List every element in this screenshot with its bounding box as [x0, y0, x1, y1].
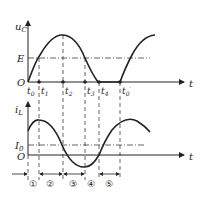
svg-text:②: ②: [46, 179, 54, 189]
x-axis-label: t: [189, 78, 194, 89]
svg-text:t1: t1: [41, 86, 48, 97]
y-axis-label: uC: [15, 21, 27, 34]
origin-label: O: [17, 77, 25, 88]
svg-text:t3: t3: [87, 86, 95, 97]
diagram: uC E O t t0 t1 t2 t3 t4 t0′ iL I0 O t ① …: [0, 0, 203, 197]
y-axis-label-il: iL: [15, 104, 23, 117]
svg-text:③: ③: [69, 179, 77, 189]
bottom-chart: iL I0 O t: [14, 102, 194, 180]
svg-text:⑤: ⑤: [105, 179, 113, 189]
svg-text:④: ④: [87, 179, 95, 189]
top-chart: uC E O t t0 t1 t2 t3 t4 t0′: [15, 21, 194, 180]
interval-labels: ① ② ③ ④ ⑤: [29, 179, 113, 189]
svg-text:t2: t2: [65, 86, 73, 97]
svg-text:t4: t4: [101, 86, 109, 97]
origin-label-bottom: O: [17, 151, 25, 162]
svg-text:t0: t0: [27, 86, 35, 97]
level-label-e: E: [16, 53, 25, 64]
svg-text:①: ①: [29, 179, 37, 189]
svg-text:t0′: t0′: [122, 85, 131, 97]
waveform-diagram: uC E O t t0 t1 t2 t3 t4 t0′ iL I0 O t ① …: [0, 0, 203, 197]
x-axis-label-bottom: t: [189, 151, 194, 162]
